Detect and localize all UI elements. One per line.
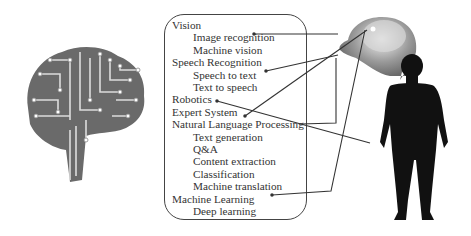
connector-robotics [217,101,370,143]
connector-expert-system [245,30,367,116]
connector-nlp [300,58,336,124]
connector-overlay [0,0,471,236]
ai-diagram: Vision Image recognition Machine vision … [0,0,471,236]
human-body-icon [380,54,448,220]
